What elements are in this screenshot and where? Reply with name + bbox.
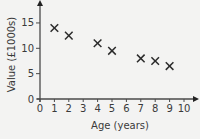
x-tick-label: 7 bbox=[138, 103, 144, 114]
x-tick-label: 6 bbox=[123, 103, 129, 114]
y-tick-label: 15 bbox=[21, 17, 34, 28]
data-point-x-marker-icon bbox=[166, 62, 174, 70]
x-tick-label: 2 bbox=[66, 103, 72, 114]
y-axis-arrow-icon bbox=[37, 0, 43, 6]
x-tick-label: 8 bbox=[152, 103, 158, 114]
y-tick-label: 10 bbox=[21, 43, 34, 54]
data-point-x-marker-icon bbox=[151, 57, 159, 65]
data-point-x-marker-icon bbox=[65, 32, 73, 40]
data-point-x-marker-icon bbox=[108, 47, 116, 55]
data-point-x-marker-icon bbox=[137, 55, 145, 63]
x-axis-title: Age (years) bbox=[91, 120, 149, 131]
x-tick-label: 9 bbox=[166, 103, 172, 114]
x-tick-label: 4 bbox=[94, 103, 100, 114]
plot-area: 051015012345678910Age (years)Value (£100… bbox=[0, 0, 200, 139]
y-tick-label: 5 bbox=[28, 68, 34, 79]
x-tick-label: 0 bbox=[37, 103, 43, 114]
x-tick-label: 3 bbox=[80, 103, 86, 114]
scatter-chart: 051015012345678910Age (years)Value (£100… bbox=[0, 0, 200, 139]
y-tick-label: 0 bbox=[28, 94, 34, 105]
x-tick-label: 10 bbox=[178, 103, 191, 114]
x-axis-arrow-icon bbox=[193, 96, 199, 102]
x-tick-label: 5 bbox=[109, 103, 115, 114]
data-point-x-marker-icon bbox=[94, 39, 102, 47]
data-point-x-marker-icon bbox=[51, 24, 59, 32]
y-axis-title: Value (£1000s) bbox=[6, 17, 17, 93]
x-tick-label: 1 bbox=[51, 103, 57, 114]
